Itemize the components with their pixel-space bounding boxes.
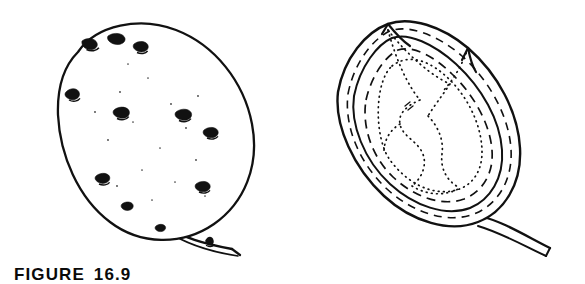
figure-caption: FIGURE16.9 [14, 266, 131, 283]
figure-caption-number: 16.9 [94, 265, 132, 284]
tuber-eye [121, 202, 133, 210]
periderm-outline [337, 21, 520, 226]
stolon-section [478, 216, 550, 256]
potato-tuber-external-view [0, 0, 300, 262]
potato-tuber-longitudinal-section [292, 0, 585, 262]
tuber-stipple-shading [0, 0, 300, 262]
figure-caption-label: FIGURE [14, 265, 85, 284]
tuber-eye [155, 224, 165, 231]
